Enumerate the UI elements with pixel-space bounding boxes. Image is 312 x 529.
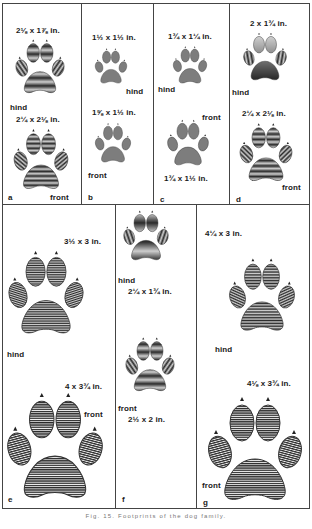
panel-letter: f [122, 495, 125, 504]
front-paw-print [238, 121, 294, 187]
panel-letter: g [203, 498, 208, 507]
front-size-label: 2¼ x 2⅛ in. [242, 109, 286, 118]
front-size-label: 4 x 3¾ in. [65, 382, 102, 391]
front-label: front [50, 193, 69, 202]
hind-label: hind [118, 276, 135, 285]
hind-paw-print [242, 31, 288, 85]
hind-label: hind [232, 88, 249, 97]
front-size-label: 1¾ x 1½ in. [164, 174, 208, 183]
panel-letter: c [160, 195, 164, 204]
panel-letter: a [8, 193, 12, 202]
hind-paw-print [94, 47, 128, 87]
hind-paw-print [227, 239, 297, 355]
front-paw-print [124, 333, 176, 399]
hind-size-label: 2¼ x 1¾ in. [128, 287, 172, 296]
hind-size-label: 2⅛ x 1⅞ in. [16, 26, 60, 35]
panel-f: hind 2¼ x 1¾ in. front 2½ x 2 in. f [116, 205, 197, 509]
panel-b: 1½ x 1½ in. hind 1⅝ x 1½ in. front b [82, 3, 154, 205]
front-paw-print [94, 121, 132, 167]
hind-label: hind [158, 85, 175, 94]
panel-letter: e [8, 495, 12, 504]
hind-size-label: 2 x 1¾ in. [250, 19, 287, 28]
hind-label: hind [10, 103, 27, 112]
front-size-label: 2½ x 2 in. [128, 415, 165, 424]
hind-size-label: 3½ x 3 in. [64, 237, 101, 246]
panel-e: 3½ x 3 in. hind 4 x 3¾ in. front e [2, 205, 116, 509]
front-size-label: 4⅛ x 3¾ in. [247, 379, 291, 388]
hind-paw-print [122, 207, 170, 267]
front-label: front [282, 183, 301, 192]
figure-caption: Fig. 15. Footprints of the dog family. [0, 513, 312, 519]
hind-label: hind [126, 87, 143, 96]
hind-size-label: 1¾ x 1¼ in. [168, 32, 212, 41]
panel-letter: d [236, 195, 241, 204]
hind-size-label: 1½ x 1½ in. [92, 33, 136, 42]
front-size-label: 1⅝ x 1½ in. [92, 108, 136, 117]
hind-label: hind [7, 350, 24, 359]
hind-paw-print [172, 45, 208, 87]
panel-c: 1¾ x 1¼ in. hind front 1¾ x 1½ in. c [154, 3, 230, 205]
panel-letter: b [88, 193, 93, 202]
front-label: front [202, 481, 221, 490]
hind-paw-print [6, 247, 86, 343]
hind-paw-print [14, 39, 66, 97]
front-paw-print [12, 129, 70, 193]
hind-label: hind [215, 345, 232, 354]
front-label: front [88, 171, 107, 180]
hind-size-label: 4¼ x 3 in. [205, 229, 242, 238]
front-label: front [84, 410, 103, 419]
panel-a: 2⅛ x 1⅞ in. hind 2¼ x 2⅛ in. a front [2, 3, 82, 205]
front-paw-print [203, 397, 307, 507]
front-label: front [118, 404, 137, 413]
panel-g: 4¼ x 3 in. hind 4⅛ x 3¾ in. front g [197, 205, 310, 509]
front-size-label: 2¼ x 2⅛ in. [16, 115, 60, 124]
front-paw-print [166, 119, 210, 169]
panel-d: 2 x 1¾ in. hind 2¼ x 2⅛ in. front d [230, 3, 310, 205]
